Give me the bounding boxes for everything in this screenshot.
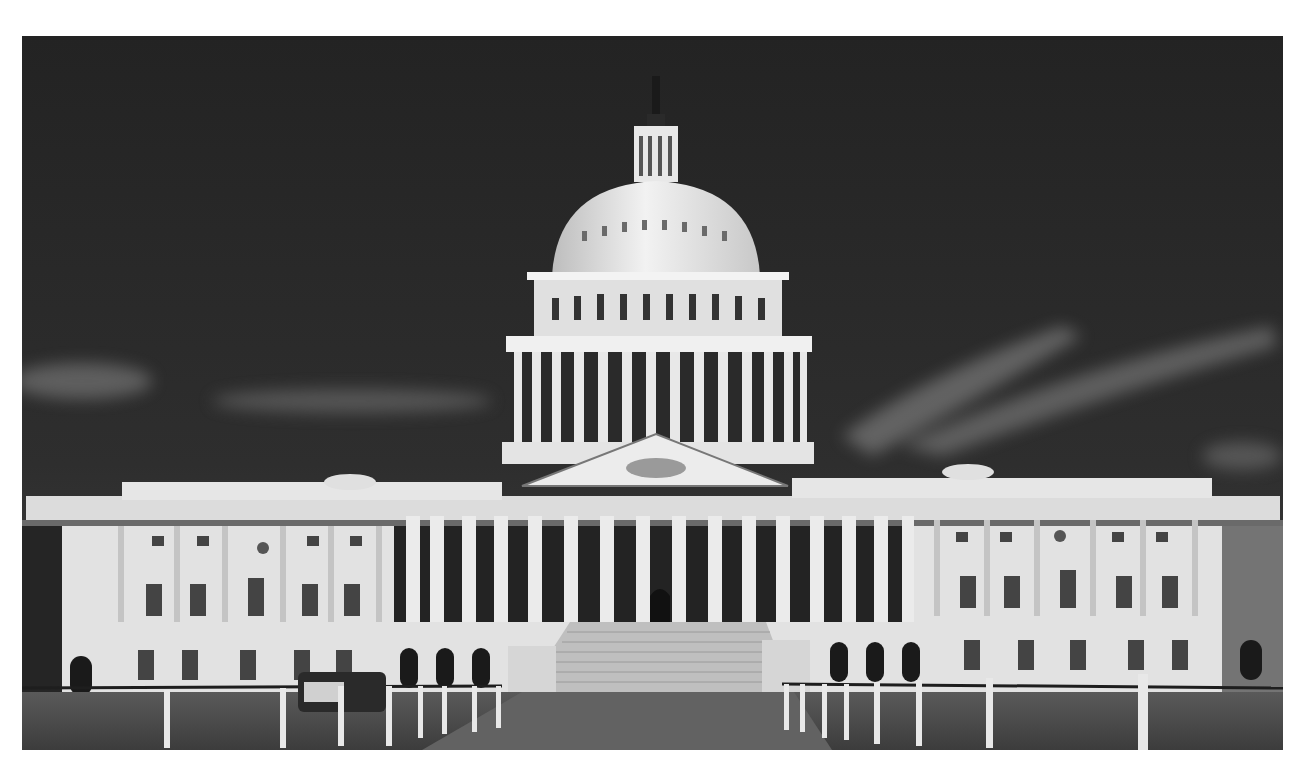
- capitol-illustration: [22, 36, 1283, 750]
- capitol-photo: United States Capitol building: [22, 36, 1283, 750]
